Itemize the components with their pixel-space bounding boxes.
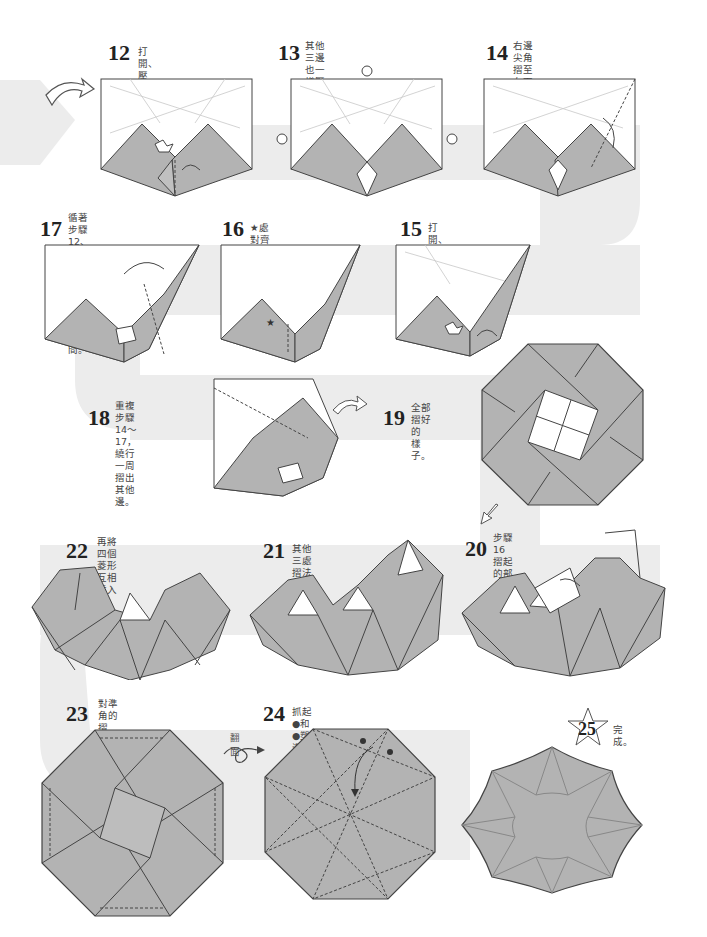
down-arrow-icon bbox=[478, 502, 503, 527]
step-16-diagram: ★ bbox=[220, 244, 365, 369]
crease-marker bbox=[362, 66, 372, 76]
flip-over-icon bbox=[222, 742, 267, 767]
crease-marker bbox=[447, 134, 457, 144]
curved-arrow-icon bbox=[330, 392, 370, 417]
step-number: 19 bbox=[383, 407, 405, 429]
crease-marker bbox=[277, 134, 287, 144]
step-number: 16 bbox=[222, 218, 244, 240]
step-22-diagram bbox=[30, 565, 240, 680]
step-number: 23 bbox=[66, 703, 88, 725]
star-marker: ★ bbox=[266, 317, 275, 328]
step-number: 12 bbox=[108, 42, 130, 64]
step-24-diagram bbox=[263, 727, 438, 902]
step-number: 18 bbox=[88, 407, 110, 429]
grab-point bbox=[360, 738, 366, 744]
step-12-diagram bbox=[100, 78, 255, 206]
curved-arrow-icon bbox=[42, 75, 97, 110]
step-18-diagram bbox=[213, 378, 343, 503]
step-number: 24 bbox=[263, 703, 285, 725]
step-25-diagram bbox=[460, 745, 645, 895]
step-caption: 全部摺好的 樣子。 bbox=[411, 402, 431, 462]
step-17-diagram bbox=[44, 244, 204, 369]
step-number: 15 bbox=[400, 218, 422, 240]
step-19-diagram bbox=[480, 342, 645, 507]
step-20-diagram bbox=[460, 528, 670, 678]
step-14-diagram bbox=[483, 78, 638, 203]
step-caption: 重複步驟14～17， 繞行一周摺出其他 邊。 bbox=[115, 400, 137, 508]
step-21-diagram bbox=[248, 535, 448, 680]
step-number: 22 bbox=[66, 540, 88, 562]
step-number: 25 bbox=[578, 720, 596, 738]
step-number: 17 bbox=[40, 218, 62, 240]
step-23-diagram bbox=[40, 728, 225, 918]
step-13-diagram bbox=[272, 64, 467, 209]
step-number: 13 bbox=[278, 42, 300, 64]
step-number: 14 bbox=[486, 42, 508, 64]
grab-point bbox=[387, 749, 393, 755]
